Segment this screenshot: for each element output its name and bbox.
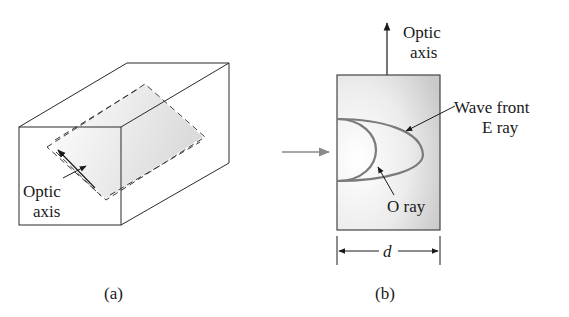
optic-axis-label-b: Optic	[403, 23, 441, 42]
optic-axis-label-a-2: axis	[33, 202, 60, 221]
o-ray-label: O ray	[387, 197, 426, 216]
e-ray-label: E ray	[482, 118, 519, 137]
optic-axis-label-a: Optic	[23, 182, 61, 201]
caption-a: (a)	[104, 284, 123, 303]
panel-b-plate: Optic axis Wave front E ray O ray d	[282, 23, 530, 265]
optic-axis-label-b-2: axis	[410, 43, 437, 62]
thickness-label: d	[383, 242, 392, 261]
panel-a-crystal: Optic axis	[19, 63, 229, 225]
caption-b: (b)	[375, 284, 395, 303]
cut-plane-shading	[52, 84, 203, 199]
birefringence-figure: Optic axis (a) Optic axis Wave front E r…	[0, 0, 569, 317]
wave-front-label: Wave front	[454, 98, 530, 117]
